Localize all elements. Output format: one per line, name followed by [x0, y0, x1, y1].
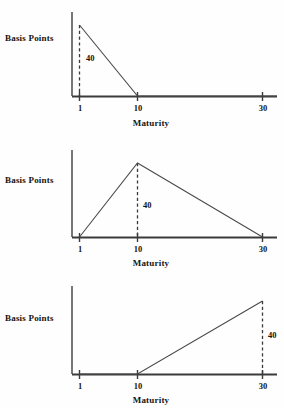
annotation-40: 40 [268, 330, 277, 340]
series-line [80, 301, 263, 374]
x-tick-label-30: 30 [252, 103, 274, 113]
annotation-40: 40 [143, 200, 152, 210]
x-tick-label-1: 1 [69, 244, 91, 254]
x-tick-label-10: 10 [127, 103, 149, 113]
x-axis-label: Maturity [126, 258, 176, 268]
annotation-40: 40 [86, 53, 95, 63]
series-line [80, 163, 263, 237]
y-axis-label: Basis Points [5, 313, 54, 323]
x-tick-label-10: 10 [127, 381, 149, 391]
x-tick-label-1: 1 [69, 381, 91, 391]
chart-declining-plot [0, 0, 284, 134]
x-tick-label-10: 10 [127, 244, 149, 254]
x-axis-label: Maturity [126, 118, 176, 128]
chart-tent: Basis Points 40 1 10 30 Maturity [0, 134, 284, 270]
x-tick-label-1: 1 [69, 103, 91, 113]
x-tick-label-30: 30 [252, 244, 274, 254]
chart-rising: Basis Points 40 1 10 30 Maturity [0, 270, 284, 408]
x-tick-label-30: 30 [252, 381, 274, 391]
y-axis-label: Basis Points [5, 175, 54, 185]
x-axis-label: Maturity [126, 395, 176, 405]
y-axis-label: Basis Points [5, 33, 54, 43]
chart-declining: Basis Points 40 1 10 30 Maturity [0, 0, 284, 134]
series-line [80, 25, 278, 96]
